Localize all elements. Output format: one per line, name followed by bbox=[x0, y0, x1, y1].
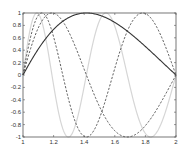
line-chart: 11.21.41.61.82 -1-0.8-0.6-0.4-0.200.20.4… bbox=[0, 0, 186, 150]
y-tick-label: 0.4 bbox=[13, 47, 22, 53]
y-tick-label: -0.4 bbox=[11, 97, 22, 103]
x-tick-label: 1.8 bbox=[141, 139, 150, 145]
y-tick-label: 1 bbox=[18, 10, 22, 16]
y-tick-label: 0 bbox=[18, 72, 22, 78]
y-tick-label: 0.6 bbox=[13, 35, 22, 41]
x-tick-label: 1.6 bbox=[111, 139, 120, 145]
series-line-k3 bbox=[23, 13, 176, 137]
y-tick-label: -0.8 bbox=[11, 122, 22, 128]
x-tick-label: 1 bbox=[21, 139, 25, 145]
y-tick-label: -0.6 bbox=[11, 109, 22, 115]
x-tick-label: 1.4 bbox=[80, 139, 89, 145]
x-tick-label: 1.2 bbox=[49, 139, 58, 145]
series-layer bbox=[23, 13, 176, 137]
y-tick-label: 0.8 bbox=[13, 22, 22, 28]
y-tick-label: -1 bbox=[16, 134, 22, 140]
y-axis-ticks: -1-0.8-0.6-0.4-0.200.20.40.60.81 bbox=[11, 10, 176, 140]
x-tick-label: 2 bbox=[174, 139, 178, 145]
y-tick-label: -0.2 bbox=[11, 84, 22, 90]
series-line-k1 bbox=[23, 13, 176, 75]
y-tick-label: 0.2 bbox=[13, 60, 22, 66]
